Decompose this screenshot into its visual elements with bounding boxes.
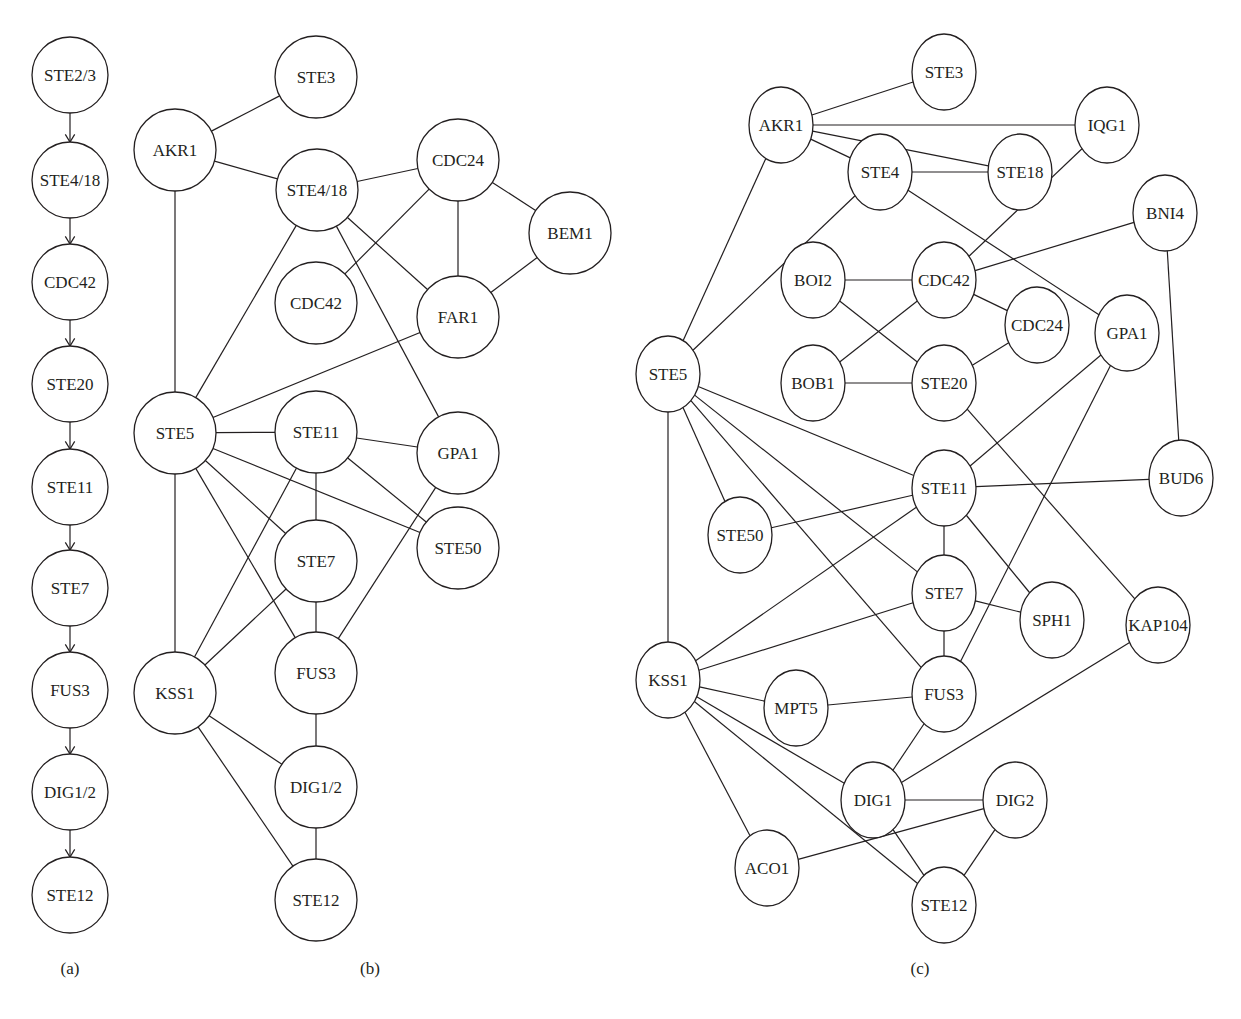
edge-gpa1-ste11: [970, 355, 1101, 466]
node-ste11: STE11: [912, 450, 976, 526]
node-fus3: FUS3: [912, 656, 976, 732]
node-ste5: STE5: [636, 336, 700, 412]
node-label: CDC24: [1011, 316, 1063, 335]
node-label: FUS3: [924, 685, 964, 704]
node-label: GPA1: [1107, 324, 1148, 343]
edge-akr1-ste4: [811, 139, 851, 158]
node-ste3: STE3: [275, 36, 357, 118]
node-ste20: STE20: [912, 345, 976, 421]
node-label: MPT5: [774, 699, 817, 718]
edge-dig1-ste12: [893, 830, 924, 876]
node-cdc24: CDC24: [417, 119, 499, 201]
node-label: STE5: [156, 424, 195, 443]
node-kss1: KSS1: [134, 652, 216, 734]
node-far1: FAR1: [417, 276, 499, 358]
node-gpa1: GPA1: [417, 412, 499, 494]
panel-b: STE3AKR1STE4/18CDC24BEM1CDC42FAR1STE5STE…: [134, 36, 611, 978]
node-ste4-18: STE4/18: [32, 142, 108, 218]
node-label: KSS1: [648, 671, 688, 690]
node-ste4: STE4: [848, 134, 912, 210]
node-label: STE2/3: [44, 66, 96, 85]
edge-ste5-ste7: [205, 461, 285, 534]
node-label: STE20: [46, 375, 93, 394]
node-label: STE7: [51, 579, 90, 598]
node-label: DIG1/2: [290, 778, 342, 797]
node-label: CDC42: [290, 294, 342, 313]
edge-kss1-mpt5: [699, 687, 764, 701]
node-label: FUS3: [296, 664, 336, 683]
node-label: CDC42: [918, 271, 970, 290]
panel-b-nodes: STE3AKR1STE4/18CDC24BEM1CDC42FAR1STE5STE…: [134, 36, 611, 941]
node-label: CDC42: [44, 273, 96, 292]
node-bni4: BNI4: [1133, 175, 1197, 251]
node-ste11: STE11: [32, 449, 108, 525]
node-label: STE12: [920, 896, 967, 915]
edge-ste11-ste50: [348, 458, 426, 522]
node-gpa1: GPA1: [1095, 295, 1159, 371]
node-label: STE12: [46, 886, 93, 905]
edge-ste4-18-far1: [347, 217, 427, 289]
node-label: CDC24: [432, 151, 484, 170]
node-label: STE3: [297, 68, 336, 87]
node-cdc42: CDC42: [912, 242, 976, 318]
node-label: DIG1/2: [44, 783, 96, 802]
node-dig1-2: DIG1/2: [32, 754, 108, 830]
node-akr1: AKR1: [749, 87, 813, 163]
node-ste3: STE3: [912, 34, 976, 110]
node-label: BOB1: [791, 374, 834, 393]
node-label: STE4/18: [287, 181, 347, 200]
node-ste11: STE11: [275, 391, 357, 473]
node-aco1: ACO1: [735, 830, 799, 906]
node-cdc42: CDC42: [275, 262, 357, 344]
edge-akr1-ste3: [211, 96, 279, 131]
edge-ste7-sph1: [975, 601, 1020, 612]
node-sph1: SPH1: [1020, 582, 1084, 658]
edge-ste20-kap104: [967, 409, 1135, 599]
node-label: KSS1: [155, 684, 195, 703]
edge-kss1-aco1: [685, 712, 750, 836]
node-label: DIG2: [996, 791, 1035, 810]
node-label: BEM1: [547, 224, 592, 243]
node-label: IQG1: [1088, 116, 1127, 135]
node-label: STE18: [996, 163, 1043, 182]
node-label: STE4: [861, 163, 900, 182]
node-label: STE5: [649, 365, 688, 384]
node-label: AKR1: [153, 141, 197, 160]
node-ste4-18: STE4/18: [276, 149, 358, 231]
edge-ste11-bud6: [976, 479, 1149, 486]
node-label: ACO1: [745, 859, 789, 878]
panel-b-caption: (b): [360, 959, 380, 978]
edge-akr1-ste3: [812, 82, 913, 115]
edge-dig2-ste12: [964, 830, 995, 876]
node-ste50: STE50: [708, 497, 772, 573]
edge-ste4-18-cdc24: [357, 169, 418, 182]
node-bem1: BEM1: [529, 192, 611, 274]
node-akr1: AKR1: [134, 109, 216, 191]
node-ste18: STE18: [988, 134, 1052, 210]
node-label: FUS3: [50, 681, 90, 700]
panel-a-caption: (a): [61, 959, 80, 978]
node-label: STE50: [434, 539, 481, 558]
node-ste12: STE12: [275, 859, 357, 941]
node-fus3: FUS3: [32, 652, 108, 728]
node-label: BOI2: [794, 271, 832, 290]
node-ste20: STE20: [32, 346, 108, 422]
node-label: STE20: [920, 374, 967, 393]
node-label: STE11: [47, 478, 94, 497]
node-bud6: BUD6: [1149, 440, 1213, 516]
edge-cdc24-bem1: [492, 182, 535, 210]
edge-akr1-ste5: [683, 158, 766, 340]
node-label: KAP104: [1128, 616, 1188, 635]
node-dig1-2: DIG1/2: [275, 746, 357, 828]
node-cdc42: CDC42: [32, 244, 108, 320]
panel-c-nodes: STE3AKR1IQG1STE4STE18BNI4BOI2CDC42CDC24G…: [636, 34, 1213, 943]
edge-ste5-ste50: [683, 408, 725, 502]
node-kss1: KSS1: [636, 642, 700, 718]
edge-ste11-ste50: [771, 495, 912, 528]
node-ste2-3: STE2/3: [32, 37, 108, 113]
edge-akr1-ste4-18: [214, 161, 277, 179]
node-label: DIG1: [854, 791, 893, 810]
node-label: AKR1: [759, 116, 803, 135]
node-ste5: STE5: [134, 392, 216, 474]
edge-cdc24-ste20: [972, 343, 1008, 366]
